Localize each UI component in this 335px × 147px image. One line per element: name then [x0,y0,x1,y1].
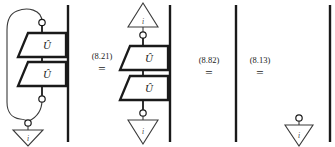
feedback-return-wire [29,100,42,121]
u-box-lower [18,62,66,86]
panel-left-hand-side: Û Û i [7,5,68,146]
equation-number-3: (8.13) [243,56,277,65]
u-box-lower-label: Û [43,68,52,80]
discard-triangle-label: i [27,134,29,143]
figure-canvas: Û Û i i [0,0,335,147]
panel-fourth: i [285,5,330,146]
state-triangle-label: i [142,17,144,26]
equation-number-2: (8.82) [192,56,226,65]
equals-sign-2: = [192,66,226,79]
u-box-lower-label: Û [145,82,154,94]
equals-sign-1: = [85,62,119,75]
string-diagram: Û Û i i [0,0,335,147]
equation-number-1: (8.21) [85,52,119,61]
bottom-dot [39,96,45,102]
bottom-dot [140,110,146,116]
u-box-upper-label: Û [145,52,154,64]
panel-second: i Û Û i [120,3,170,144]
discard-triangle-label: i [298,131,300,140]
u-box-upper [18,33,66,57]
equals-sign-3: = [243,66,277,79]
top-dot [140,32,146,38]
dot [296,115,302,121]
u-box-lower [120,76,168,100]
loop-join-dot [25,120,31,126]
u-box-upper-label: Û [43,39,52,51]
top-dot [39,19,45,25]
discard-triangle-label: i [142,127,144,136]
u-box-upper [120,46,168,70]
